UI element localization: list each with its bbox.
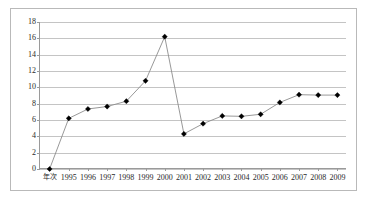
x-axis-tick-label: 1997 (99, 173, 115, 182)
x-axis-tick-mark (165, 168, 166, 171)
x-axis-tick-mark (280, 168, 281, 171)
chart-frame: 024681012141618 年次1995199619971998199920… (10, 8, 357, 191)
y-axis-tick-label: 16 (28, 34, 36, 42)
y-axis-tick-label: 8 (32, 100, 36, 108)
y-axis-tick-label: 12 (28, 67, 36, 75)
x-axis-tick-mark (146, 168, 147, 171)
y-axis-tick-label: 0 (32, 165, 36, 173)
x-axis-tick-mark (318, 168, 319, 171)
x-axis-tick-mark (337, 168, 338, 171)
data-point-marker (220, 113, 225, 118)
data-point-marker (239, 114, 244, 119)
x-axis-tick-label: 2002 (195, 173, 211, 182)
x-axis-tick-label: 2003 (214, 173, 230, 182)
x-axis-tick-label: 1995 (61, 173, 77, 182)
plot-wrapper: 024681012141618 年次1995199619971998199920… (11, 9, 356, 190)
data-point-marker (105, 104, 110, 109)
x-axis-tick-label: 年次 (43, 173, 57, 182)
y-axis-tick-label: 14 (28, 51, 36, 59)
x-axis-tick-mark (107, 168, 108, 171)
x-axis-tick-mark (184, 168, 185, 171)
x-axis-tick-label: 2007 (291, 173, 307, 182)
x-axis-tick-label: 2000 (157, 173, 173, 182)
y-axis-tick-label: 6 (32, 116, 36, 124)
x-axis-tick-label: 2009 (329, 173, 345, 182)
y-axis-tick-label: 18 (28, 18, 36, 26)
x-axis-tick-label: 1996 (80, 173, 96, 182)
data-point-marker (66, 116, 71, 121)
data-point-marker (162, 34, 167, 39)
x-axis-tick-mark (203, 168, 204, 171)
data-point-marker (277, 100, 282, 105)
x-axis-tick-mark (88, 168, 89, 171)
series-layer (40, 22, 346, 168)
data-point-marker (316, 92, 321, 97)
x-axis-tick-label: 2006 (272, 173, 288, 182)
x-axis-tick-mark (69, 168, 70, 171)
x-axis-tick-mark (241, 168, 242, 171)
plot-area: 024681012141618 年次1995199619971998199920… (39, 22, 346, 169)
x-axis-tick-mark (299, 168, 300, 171)
x-axis-tick-label: 2001 (176, 173, 192, 182)
x-axis-tick-mark (261, 168, 262, 171)
x-axis-tick-label: 1999 (138, 173, 154, 182)
y-axis-tick-label: 10 (28, 83, 36, 91)
x-axis-tick-label: 2008 (310, 173, 326, 182)
x-axis-tick-label: 1998 (118, 173, 134, 182)
data-point-marker (335, 92, 340, 97)
data-point-marker (200, 121, 205, 126)
x-axis-tick-mark (126, 168, 127, 171)
data-point-marker (258, 112, 263, 117)
data-point-marker (181, 131, 186, 136)
y-axis-tick-label: 2 (32, 149, 36, 157)
x-axis-tick-label: 2005 (253, 173, 269, 182)
data-point-marker (296, 92, 301, 97)
y-axis-tick-label: 4 (32, 132, 36, 140)
gridline (40, 169, 346, 170)
x-axis-tick-mark (222, 168, 223, 171)
series-line (50, 37, 338, 169)
series-markers (47, 34, 340, 172)
x-axis-tick-label: 2004 (233, 173, 249, 182)
y-axis-tick-mark (37, 169, 40, 170)
data-point-marker (85, 106, 90, 111)
data-point-marker (47, 166, 52, 171)
